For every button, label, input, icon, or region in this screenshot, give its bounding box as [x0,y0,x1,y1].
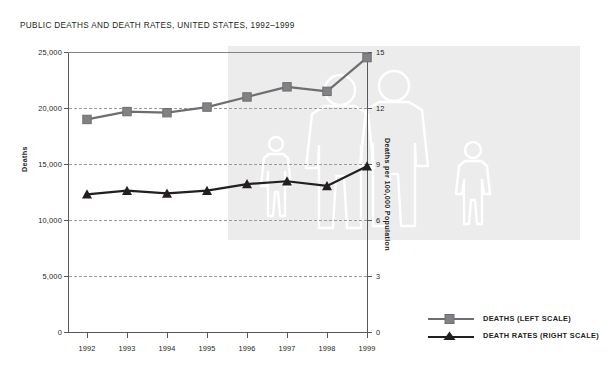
x-tick-1995 [207,333,208,338]
y-tick-right-15 [368,52,372,53]
data-point-0-1998 [323,87,331,95]
data-point-0-1999 [363,53,371,61]
legend-item-death-rates[interactable]: DEATH RATES (RIGHT SCALE) [428,327,599,344]
data-point-0-1992 [83,115,91,123]
legend-label-deaths: DEATHS (LEFT SCALE) [483,314,571,323]
legend-item-deaths[interactable]: DEATHS (LEFT SCALE) [428,310,599,327]
plot-area: 0 5,000 10,000 15,000 20,000 25,000 0 3 … [68,52,368,333]
x-label-1992: 1992 [67,344,107,353]
y-axis-left-title: Deaths [20,146,29,172]
y-label-left-0: 0 [12,328,62,337]
page-title: PUBLIC DEATHS AND DEATH RATES, UNITED ST… [20,21,295,30]
x-tick-1999 [367,333,368,338]
y-tick-right-6 [368,220,372,221]
y-label-left-10000: 10,000 [12,216,62,225]
y-label-right-15: 15 [376,48,400,57]
x-label-1996: 1996 [227,344,267,353]
y-axis-right-title: Deaths per 100,000 Population [383,138,392,251]
top-rule [0,0,616,3]
data-point-0-1994 [163,109,171,117]
y-label-left-20000: 20,000 [12,104,62,113]
data-point-0-1993 [123,107,131,115]
x-tick-1992 [87,333,88,338]
x-label-1998: 1998 [307,344,347,353]
x-tick-1993 [127,333,128,338]
chart-page: PUBLIC DEATHS AND DEATH RATES, UNITED ST… [0,0,616,381]
x-label-1995: 1995 [187,344,227,353]
data-series-layer [68,52,368,333]
y-tick-right-0 [368,332,372,333]
x-label-1994: 1994 [147,344,187,353]
x-tick-1997 [287,333,288,338]
y-label-right-3: 3 [376,272,400,281]
legend-label-death-rates: DEATH RATES (RIGHT SCALE) [483,331,599,340]
chart-legend: DEATHS (LEFT SCALE) DEATH RATES (RIGHT S… [428,310,599,344]
x-tick-1998 [327,333,328,338]
data-point-0-1996 [243,93,251,101]
y-label-right-12: 12 [376,104,400,113]
y-label-right-0: 0 [376,328,400,337]
square-marker-icon [428,313,474,325]
y-tick-right-12 [368,108,372,109]
x-label-1993: 1993 [107,344,147,353]
x-tick-1994 [167,333,168,338]
x-label-1999: 1999 [347,344,387,353]
data-point-0-1997 [283,83,291,91]
y-label-left-5000: 5,000 [12,272,62,281]
x-label-1997: 1997 [267,344,307,353]
x-tick-1996 [247,333,248,338]
y-label-left-25000: 25,000 [12,48,62,57]
y-tick-right-3 [368,276,372,277]
data-point-0-1995 [203,103,211,111]
triangle-marker-icon [428,330,474,342]
